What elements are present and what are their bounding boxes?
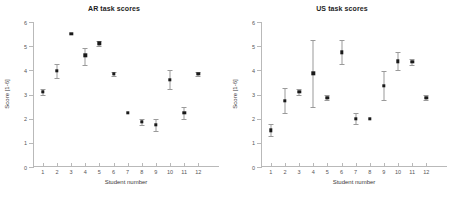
x-axis-tick	[370, 163, 371, 167]
y-axis-tick: 0	[29, 167, 34, 168]
x-axis-tick	[184, 163, 185, 167]
y-axis-tick: 2	[257, 119, 262, 120]
error-bar-cap	[83, 65, 88, 66]
error-bar-cap	[111, 76, 116, 77]
y-axis-tick-label: 5	[252, 44, 255, 50]
x-axis-tick-label: 12	[195, 169, 201, 175]
data-point-marker	[98, 42, 101, 45]
y-axis-tick-label: 4	[24, 68, 27, 74]
error-bar-cap	[168, 89, 173, 90]
x-axis-tick	[285, 163, 286, 167]
data-point-marker	[182, 111, 185, 114]
x-axis-tick-label: 2	[283, 169, 286, 175]
y-axis-tick-label: 5	[24, 44, 27, 50]
error-bar-cap	[339, 40, 344, 41]
error-bar-cap	[283, 88, 288, 89]
x-axis-tick-label: 1	[41, 169, 44, 175]
data-point-marker	[368, 117, 371, 120]
data-point-marker	[41, 90, 44, 93]
data-point-marker	[269, 129, 272, 132]
x-axis-tick-label: 12	[423, 169, 429, 175]
x-axis-tick-label: 11	[409, 169, 415, 175]
error-bar-cap	[40, 95, 45, 96]
panel-title: AR task scores	[0, 5, 228, 12]
panel-ar-task-scores: AR task scores Score [1-6] Student numbe…	[0, 0, 228, 201]
x-axis-tick-label: 10	[167, 169, 173, 175]
error-bar-cap	[297, 95, 302, 96]
data-point-marker	[112, 72, 115, 75]
data-point-marker	[84, 54, 87, 57]
y-axis-tick: 0	[257, 167, 262, 168]
y-axis-tick-label: 0	[24, 165, 27, 171]
error-bar-cap	[396, 52, 401, 53]
x-axis-title: Student number	[33, 179, 219, 185]
data-point-marker	[382, 84, 385, 87]
y-axis-tick-label: 0	[252, 165, 255, 171]
x-axis-tick	[99, 163, 100, 167]
data-point-marker	[396, 60, 399, 63]
y-axis-tick-label: 6	[252, 20, 255, 26]
data-point-marker	[312, 72, 315, 75]
y-axis-tick-label: 4	[252, 68, 255, 74]
error-bar-cap	[268, 136, 273, 137]
data-point-marker	[168, 78, 171, 81]
data-point-marker	[55, 69, 58, 72]
data-point-marker	[154, 123, 157, 126]
y-axis-tick-label: 6	[24, 20, 27, 26]
error-bar-cap	[381, 100, 386, 101]
data-point-marker	[140, 120, 143, 123]
y-axis-tick: 6	[257, 22, 262, 23]
y-axis-tick: 1	[257, 143, 262, 144]
y-axis-tick: 3	[257, 95, 262, 96]
x-axis-tick	[128, 163, 129, 167]
error-bar-cap	[168, 70, 173, 71]
x-axis-title: Student number	[261, 179, 447, 185]
y-axis-tick-label: 2	[252, 116, 255, 122]
y-axis-title: Score [1-6]	[4, 79, 10, 108]
x-axis-tick	[156, 163, 157, 167]
x-axis-tick	[412, 163, 413, 167]
error-bar-cap	[325, 100, 330, 101]
x-axis-tick-label: 5	[98, 169, 101, 175]
y-axis-tick: 5	[257, 46, 262, 47]
y-axis-tick-label: 1	[24, 140, 27, 146]
error-bar-cap	[424, 100, 429, 101]
x-axis-tick-label: 5	[326, 169, 329, 175]
data-point-marker	[326, 96, 329, 99]
x-axis-tick	[313, 163, 314, 167]
y-axis-tick-label: 3	[252, 92, 255, 98]
data-point-marker	[283, 99, 286, 102]
error-bar-cap	[55, 64, 60, 65]
x-axis-tick-label: 9	[382, 169, 385, 175]
data-point-marker	[297, 90, 300, 93]
x-axis-tick	[170, 163, 171, 167]
x-axis-tick-label: 3	[298, 169, 301, 175]
x-axis-tick	[384, 163, 385, 167]
x-axis-tick	[327, 163, 328, 167]
x-axis-tick	[114, 163, 115, 167]
y-axis-tick: 2	[29, 119, 34, 120]
data-point-marker	[354, 117, 357, 120]
x-axis-tick	[299, 163, 300, 167]
error-bar-cap	[196, 76, 201, 77]
x-axis-tick	[198, 163, 199, 167]
x-axis-tick-label: 1	[269, 169, 272, 175]
plot-area	[261, 22, 439, 167]
error-bar-cap	[311, 107, 316, 108]
data-point-marker	[197, 72, 200, 75]
y-axis-tick: 5	[29, 46, 34, 47]
error-bar-cap	[268, 124, 273, 125]
y-axis-title: Score [1-6]	[232, 79, 238, 108]
x-axis-tick-label: 7	[126, 169, 129, 175]
error-bar-cap	[339, 64, 344, 65]
data-point-marker	[425, 96, 428, 99]
x-axis-tick-label: 8	[368, 169, 371, 175]
x-axis-tick	[398, 163, 399, 167]
y-axis-tick-label: 3	[24, 92, 27, 98]
x-axis-tick-label: 9	[154, 169, 157, 175]
x-axis-tick	[43, 163, 44, 167]
x-axis-tick	[426, 163, 427, 167]
x-axis-tick-label: 10	[395, 169, 401, 175]
x-axis-tick	[85, 163, 86, 167]
plot-area	[33, 22, 211, 167]
